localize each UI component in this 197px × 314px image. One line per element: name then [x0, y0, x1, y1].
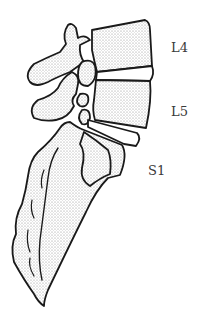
facet-joint-lower [77, 94, 88, 107]
label-l5: L5 [171, 104, 188, 119]
l4-vertebral-body [92, 20, 152, 72]
spine-illustration [0, 0, 197, 314]
l5-vertebral-body [93, 80, 150, 128]
spine-diagram: L4 L5 S1 [0, 0, 197, 314]
label-l4: L4 [171, 40, 188, 55]
label-s1: S1 [148, 163, 165, 178]
facet-joint-upper [78, 61, 96, 86]
